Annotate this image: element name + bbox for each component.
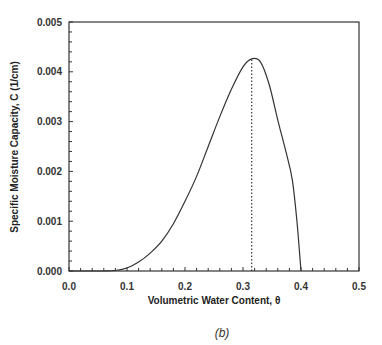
y-tick-label: 0.005 bbox=[37, 17, 62, 28]
plot-frame bbox=[69, 22, 359, 271]
axis-ticks bbox=[69, 22, 359, 271]
tick-marks bbox=[69, 22, 359, 271]
figure-caption: (b) bbox=[215, 326, 230, 340]
x-tick-labels: 0.00.10.20.30.40.5 bbox=[62, 281, 366, 292]
y-tick-label: 0.002 bbox=[37, 166, 62, 177]
x-tick-label: 0.1 bbox=[120, 281, 134, 292]
y-tick-label: 0.000 bbox=[37, 266, 62, 277]
moisture-capacity-curve bbox=[69, 58, 301, 271]
y-tick-label: 0.003 bbox=[37, 116, 62, 127]
y-tick-labels: 0.0000.0010.0020.0030.0040.005 bbox=[37, 17, 62, 277]
y-axis-title: Specific Moisture Capacity, C (1/cm) bbox=[9, 61, 20, 233]
x-tick-label: 0.3 bbox=[236, 281, 250, 292]
y-tick-label: 0.004 bbox=[37, 66, 62, 77]
x-axis-title: Volumetric Water Content, θ bbox=[148, 295, 281, 306]
x-tick-label: 0.2 bbox=[178, 281, 192, 292]
x-tick-label: 0.5 bbox=[352, 281, 366, 292]
x-tick-label: 0.0 bbox=[62, 281, 76, 292]
moisture-capacity-chart: 0.00.10.20.30.40.5 0.0000.0010.0020.0030… bbox=[0, 0, 382, 345]
y-tick-label: 0.001 bbox=[37, 216, 62, 227]
x-tick-label: 0.4 bbox=[294, 281, 308, 292]
